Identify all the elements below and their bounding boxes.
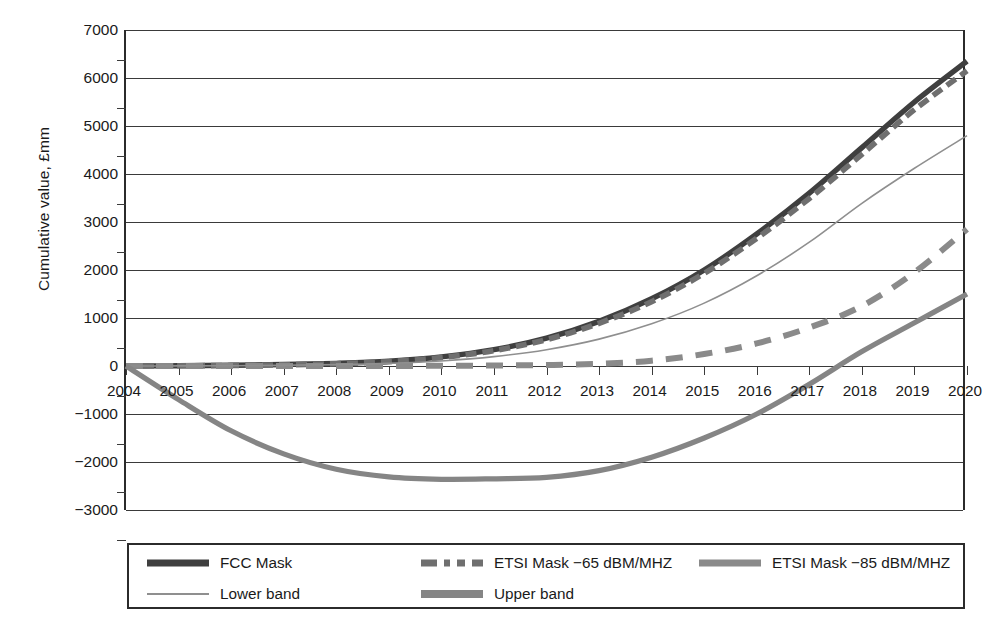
x-tick-label: 2018 <box>832 383 888 398</box>
legend-label: ETSI Mask −65 dBM/MHZ <box>494 554 672 572</box>
x-tick-label: 2005 <box>149 383 205 398</box>
y-tick-label: 2000 <box>46 262 118 278</box>
chart-figure: Cumulative value, £mm 700060005000400030… <box>0 0 1003 626</box>
chart-legend: FCC MaskETSI Mask −65 dBM/MHZETSI Mask −… <box>127 543 965 609</box>
legend-swatch-icon <box>699 559 761 566</box>
plot-area <box>124 30 965 510</box>
legend-row: FCC MaskETSI Mask −65 dBM/MHZETSI Mask −… <box>129 546 963 579</box>
legend-item[interactable]: Upper band <box>421 577 574 610</box>
x-tick-label: 2010 <box>411 383 467 398</box>
y-tick-mark <box>117 492 126 493</box>
y-tick-label: −2000 <box>46 454 118 470</box>
x-tick-label: 2008 <box>306 383 362 398</box>
legend-item[interactable]: ETSI Mask −85 dBM/MHZ <box>699 546 950 579</box>
x-tick-label: 2013 <box>569 383 625 398</box>
y-tick-mark <box>117 540 126 541</box>
x-tick-label: 2011 <box>464 383 520 398</box>
y-tick-label: 3000 <box>46 214 118 230</box>
x-tick-label: 2009 <box>359 383 415 398</box>
y-tick-label: 6000 <box>46 70 118 86</box>
x-tick-label: 2006 <box>201 383 257 398</box>
y-tick-mark <box>117 156 126 157</box>
series-layer <box>126 30 963 510</box>
legend-swatch-icon <box>147 559 209 566</box>
x-tick-label: 2015 <box>674 383 730 398</box>
series-svg <box>126 30 967 510</box>
legend-item[interactable]: FCC Mask <box>147 546 292 579</box>
y-tick-label: 0 <box>46 358 118 374</box>
x-tick-label: 2017 <box>779 383 835 398</box>
legend-item[interactable]: Lower band <box>147 577 300 610</box>
x-tick-label: 2007 <box>254 383 310 398</box>
y-tick-mark <box>117 444 126 445</box>
y-tick-mark <box>117 300 126 301</box>
y-tick-mark <box>117 348 126 349</box>
x-tick-label: 2014 <box>622 383 678 398</box>
y-tick-mark <box>117 60 126 61</box>
legend-swatch-icon <box>147 593 209 595</box>
legend-swatch-icon <box>421 559 483 566</box>
legend-label: Upper band <box>494 585 574 603</box>
x-tick-mark <box>967 366 968 375</box>
y-tick-label: 5000 <box>46 118 118 134</box>
legend-swatch-icon <box>421 590 483 598</box>
y-tick-label: −1000 <box>46 406 118 422</box>
legend-swatch <box>147 587 209 601</box>
legend-label: Lower band <box>220 585 300 603</box>
legend-label: ETSI Mask −85 dBM/MHZ <box>772 554 950 572</box>
x-tick-label: 2004 <box>96 383 152 398</box>
legend-row: Lower bandUpper band <box>129 577 963 610</box>
gridline <box>126 510 963 511</box>
y-tick-mark <box>117 204 126 205</box>
x-tick-label: 2016 <box>727 383 783 398</box>
y-tick-mark <box>117 108 126 109</box>
x-axis-tick-labels: 2004200520062007200820092010201120122013… <box>124 383 965 405</box>
legend-swatch <box>421 556 483 570</box>
legend-item[interactable]: ETSI Mask −65 dBM/MHZ <box>421 546 672 579</box>
y-tick-label: 4000 <box>46 166 118 182</box>
y-tick-label: 1000 <box>46 310 118 326</box>
y-tick-mark <box>117 252 126 253</box>
y-tick-label: −3000 <box>46 502 118 518</box>
legend-swatch <box>147 556 209 570</box>
legend-label: FCC Mask <box>220 554 292 572</box>
y-axis-tick-labels: 70006000500040003000200010000−1000−2000−… <box>32 0 118 560</box>
y-tick-label: 7000 <box>46 22 118 38</box>
legend-swatch <box>699 556 761 570</box>
x-tick-label: 2020 <box>937 383 993 398</box>
legend-swatch <box>421 587 483 601</box>
series-line <box>126 61 967 366</box>
x-tick-label: 2019 <box>884 383 940 398</box>
x-tick-label: 2012 <box>517 383 573 398</box>
series-line <box>126 229 967 366</box>
